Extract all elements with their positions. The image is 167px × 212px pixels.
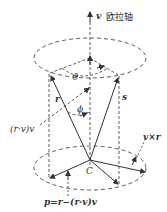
axis-label: 欧拉轴: [106, 11, 133, 22]
phi-label: ϕ: [77, 104, 83, 114]
perp-label: p=r−(r·v)v: [44, 197, 98, 207]
cross-label: v×r: [143, 132, 162, 142]
theta-label: ϑ: [72, 72, 79, 82]
theta-arc: [62, 68, 108, 76]
vector-p: [50, 160, 90, 178]
s-label: s: [122, 92, 127, 102]
euler-rotation-diagram: v 欧拉轴 ϑ r s ϕ (r·v)v C v×r p=r−(r·v)v: [0, 0, 167, 212]
projection-label: (r·v)v: [10, 124, 34, 134]
vector-r: [51, 76, 90, 160]
axis-symbol: v: [96, 11, 102, 21]
vector-s: [90, 78, 118, 160]
vector-rotated-p: [90, 160, 118, 184]
vector-vxr: [90, 160, 145, 172]
center-label: C: [86, 166, 93, 176]
